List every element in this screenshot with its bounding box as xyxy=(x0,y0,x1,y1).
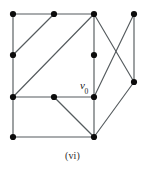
graph-vertex-j xyxy=(10,134,16,140)
graph-vertex-v0 xyxy=(91,94,97,100)
graph-edge-k-g xyxy=(94,82,134,137)
graph-edge-e-b xyxy=(13,14,54,55)
figure-caption: (vi) xyxy=(0,150,145,161)
vertex-label-v0: v0 xyxy=(80,80,89,94)
graph-vertex-c xyxy=(91,11,97,17)
graph-vertex-k xyxy=(91,134,97,140)
graph-edge-i-k xyxy=(54,97,94,137)
graph-vertex-e xyxy=(10,52,16,58)
vertex-layer xyxy=(10,11,137,140)
graph-vertex-g xyxy=(131,79,137,85)
graph-edge-c-g xyxy=(94,14,134,82)
graph-edge-d-v0 xyxy=(94,14,134,97)
graph-vertex-d xyxy=(131,11,137,17)
graph-vertex-b xyxy=(51,11,57,17)
graph-canvas xyxy=(0,0,145,172)
graph-figure: v0 (vi) xyxy=(0,0,145,172)
graph-vertex-i xyxy=(51,94,57,100)
graph-vertex-h xyxy=(10,94,16,100)
graph-vertex-a xyxy=(10,11,16,17)
edge-layer xyxy=(13,14,134,137)
graph-vertex-f xyxy=(91,52,97,58)
